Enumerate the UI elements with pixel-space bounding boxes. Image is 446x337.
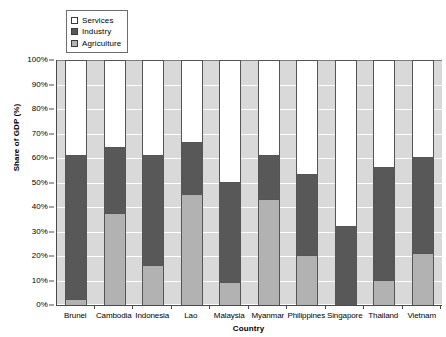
bar-segment-industry	[105, 148, 125, 214]
bar-segment-agriculture	[220, 283, 240, 305]
bar-slot	[250, 60, 289, 305]
bar-segment-industry	[66, 156, 86, 301]
y-tick-label: 90%	[32, 81, 48, 89]
y-tick-label: 10%	[32, 277, 48, 285]
x-axis-title: Country	[56, 324, 441, 333]
bar-segment-industry	[182, 143, 202, 194]
y-tick-label: 80%	[32, 105, 48, 113]
bar-singapore	[335, 60, 357, 305]
y-tick-label: 70%	[32, 130, 48, 138]
y-tickmark	[49, 256, 54, 257]
x-tickmark	[287, 305, 326, 309]
y-tickmark	[49, 60, 54, 61]
x-tickmark	[95, 305, 134, 309]
x-tickmark	[249, 305, 288, 309]
bar-segment-agriculture	[374, 281, 394, 306]
bar-segment-agriculture	[259, 200, 279, 305]
bar-segment-agriculture	[105, 214, 125, 305]
bar-myanmar	[258, 60, 280, 305]
x-tickmark	[403, 305, 442, 309]
bar-slot	[57, 60, 96, 305]
bar-slot	[404, 60, 443, 305]
y-tickmark	[49, 109, 54, 110]
bar-slot	[134, 60, 173, 305]
y-tickmark	[49, 158, 54, 159]
y-tickmark	[49, 182, 54, 183]
x-tick-label-vietnam: Vietnam	[403, 311, 442, 320]
bar-segment-services	[297, 60, 317, 175]
bar-segment-industry	[374, 168, 394, 281]
y-tick-label: 30%	[32, 228, 48, 236]
x-axis-tickmarks	[56, 305, 441, 309]
x-tickmark	[326, 305, 365, 309]
legend-swatch-services	[71, 17, 78, 24]
bar-lao	[181, 60, 203, 305]
x-tick-label-malaysia: Malaysia	[210, 311, 249, 320]
legend-swatch-industry	[71, 28, 78, 35]
x-tickmark	[172, 305, 211, 309]
bar-cambodia	[104, 60, 126, 305]
bar-segment-services	[105, 60, 125, 148]
x-tick-label-philippines: Philippines	[287, 311, 326, 320]
x-axis-labels: BruneiCambodiaIndonesiaLaoMalaysiaMyanma…	[56, 311, 441, 320]
y-axis-ticks: 100%90%80%70%60%50%40%30%20%10%0%	[0, 60, 54, 305]
legend-item-industry: Industry	[71, 26, 121, 37]
legend-label-services: Services	[82, 16, 113, 25]
x-tick-label-singapore: Singapore	[326, 311, 365, 320]
y-tickmark	[49, 133, 54, 134]
bar-slot	[211, 60, 250, 305]
bar-segment-industry	[297, 175, 317, 256]
legend-label-agriculture: Agriculture	[82, 39, 121, 48]
bar-slot	[327, 60, 366, 305]
y-tickmark	[49, 280, 54, 281]
x-tickmark	[133, 305, 172, 309]
x-tickmark	[56, 305, 95, 309]
bar-segment-services	[413, 60, 433, 158]
bar-segment-services	[220, 60, 240, 183]
legend-item-agriculture: Agriculture	[71, 38, 121, 49]
bar-segment-services	[336, 60, 356, 227]
y-tick-label: 100%	[27, 56, 48, 64]
bar-segment-services	[374, 60, 394, 168]
y-tickmark	[49, 305, 54, 306]
bar-segment-agriculture	[413, 254, 433, 305]
legend-swatch-agriculture	[71, 40, 78, 47]
bar-segment-industry	[413, 158, 433, 254]
x-tick-label-thailand: Thailand	[364, 311, 403, 320]
bar-slot	[365, 60, 404, 305]
bar-segment-services	[143, 60, 163, 156]
bar-slot	[173, 60, 212, 305]
bar-segment-agriculture	[297, 256, 317, 305]
y-tickmark	[49, 231, 54, 232]
x-tick-label-lao: Lao	[172, 311, 211, 320]
bars-layer	[57, 60, 442, 305]
x-tick-label-brunei: Brunei	[56, 311, 95, 320]
bar-segment-industry	[336, 227, 356, 305]
x-tick-label-cambodia: Cambodia	[95, 311, 134, 320]
bar-segment-agriculture	[182, 195, 202, 305]
x-tickmark	[364, 305, 403, 309]
bar-philippines	[296, 60, 318, 305]
bar-thailand	[373, 60, 395, 305]
bar-indonesia	[142, 60, 164, 305]
y-tickmark	[49, 207, 54, 208]
bar-brunei	[65, 60, 87, 305]
bar-malaysia	[219, 60, 241, 305]
x-tickmark	[210, 305, 249, 309]
bar-segment-services	[182, 60, 202, 143]
stacked-bar-chart: Services Industry Agriculture Share of G…	[0, 0, 446, 337]
legend-label-industry: Industry	[82, 27, 111, 36]
plot-area	[56, 60, 442, 306]
bar-segment-industry	[259, 156, 279, 200]
y-tick-label: 40%	[32, 203, 48, 211]
bar-segment-agriculture	[143, 266, 163, 305]
bar-segment-industry	[220, 183, 240, 283]
bar-slot	[96, 60, 135, 305]
bar-vietnam	[412, 60, 434, 305]
bar-segment-industry	[143, 156, 163, 266]
y-tick-label: 60%	[32, 154, 48, 162]
y-tickmark	[49, 84, 54, 85]
x-tick-label-indonesia: Indonesia	[133, 311, 172, 320]
legend-item-services: Services	[71, 15, 121, 26]
x-tick-label-myanmar: Myanmar	[249, 311, 288, 320]
